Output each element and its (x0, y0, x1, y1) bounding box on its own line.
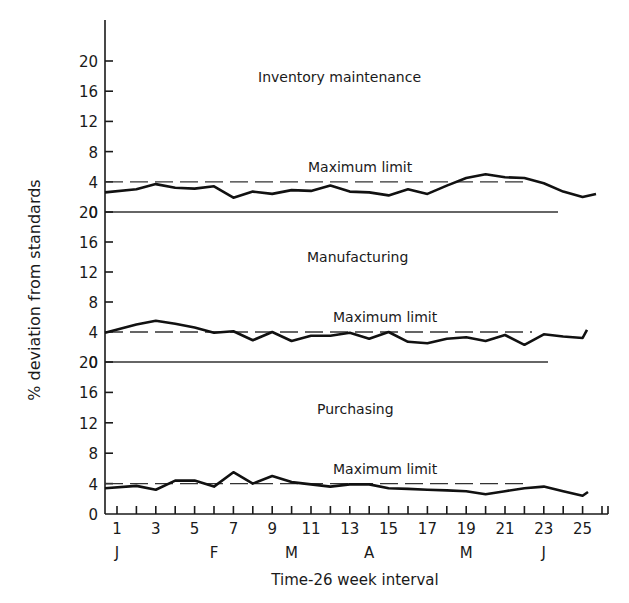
y-tick-label: 8 (88, 144, 98, 162)
x-tick-label: 15 (379, 520, 398, 538)
x-tick-label: 9 (267, 520, 277, 538)
month-label: J (114, 544, 119, 562)
y-tick-label: 4 (88, 324, 98, 342)
x-tick-label: 13 (340, 520, 359, 538)
panel-title: Inventory maintenance (258, 69, 421, 85)
y-tick-label: 16 (79, 83, 98, 101)
x-tick-label: 21 (495, 520, 514, 538)
x-tick-label: 11 (301, 520, 320, 538)
x-tick-label: 19 (457, 520, 476, 538)
y-tick-label: 8 (88, 445, 98, 463)
x-tick-label: 23 (534, 520, 553, 538)
x-tick-label: 17 (418, 520, 437, 538)
y-tick-label: 12 (79, 415, 98, 433)
x-tick-label: 5 (190, 520, 200, 538)
y-tick-label: 16 (79, 234, 98, 252)
x-axis-label: Time-26 week interval (270, 571, 438, 589)
y-tick-label: 0 (88, 506, 98, 524)
panel-purchasing: 048121620Maximum limitPurchasing (79, 354, 588, 524)
x-axis: 135791113151719212325JFMAMJ (105, 506, 608, 562)
control-chart: 048121620Maximum limitInventory maintena… (0, 0, 629, 603)
panel-inventory: 048121620Maximum limitInventory maintena… (79, 20, 596, 222)
x-tick-label: 7 (229, 520, 239, 538)
y-tick-label: 4 (88, 476, 98, 494)
y-tick-label: 20 (79, 53, 98, 71)
y-tick-label: 16 (79, 384, 98, 402)
maximum-limit-label: Maximum limit (333, 461, 438, 477)
panel-title: Manufacturing (307, 249, 408, 265)
chart-panels: 048121620Maximum limitInventory maintena… (79, 20, 596, 524)
x-tick-label: 3 (151, 520, 161, 538)
month-label: A (364, 544, 375, 562)
month-label: J (541, 544, 546, 562)
y-axis-label: % deviation from standards (25, 179, 44, 400)
series-line-inventory (105, 174, 596, 197)
y-tick-label: 4 (88, 174, 98, 192)
month-label: M (460, 544, 473, 562)
x-tick-label: 1 (112, 520, 122, 538)
x-tick-label: 25 (573, 520, 592, 538)
maximum-limit-label: Maximum limit (308, 159, 413, 175)
panel-title: Purchasing (317, 401, 394, 417)
y-tick-label: 12 (79, 264, 98, 282)
y-tick-label: 12 (79, 113, 98, 131)
panel-manufacturing: 048121620Maximum limitManufacturing (79, 204, 587, 372)
month-label: F (210, 544, 219, 562)
y-tick-label: 20 (79, 204, 98, 222)
maximum-limit-label: Maximum limit (333, 309, 438, 325)
y-tick-label: 8 (88, 294, 98, 312)
y-tick-label: 20 (79, 354, 98, 372)
month-label: M (285, 544, 298, 562)
